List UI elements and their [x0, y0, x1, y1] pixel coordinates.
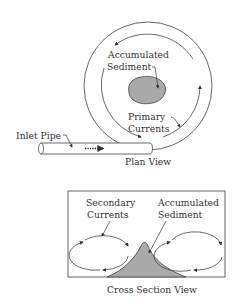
primary-currents-leader — [171, 117, 180, 127]
primary-currents-label-1: Primary — [128, 111, 166, 122]
cross-sediment-label-2: Sediment — [158, 209, 203, 220]
inlet-pipe — [39, 143, 153, 154]
cross-section-caption: Cross Section View — [107, 284, 197, 295]
primary-currents-label-2: Currents — [128, 123, 170, 134]
sediment-flow-diagram: Accumulated Sediment Primary Currents In… — [0, 0, 236, 304]
cross-sediment-label-1: Accumulated — [157, 197, 219, 208]
plan-sediment-label-2: Sediment — [107, 61, 152, 72]
sediment-blob-plan — [129, 76, 166, 103]
plan-sediment-label-1: Accumulated — [107, 49, 169, 60]
secondary-currents-label-2: Currents — [87, 209, 129, 220]
plan-view: Accumulated Sediment Primary Currents In… — [16, 22, 212, 167]
cross-section-view: Secondary Currents Accumulated Sediment … — [68, 191, 225, 295]
plan-view-caption: Plan View — [125, 156, 171, 167]
inlet-pipe-label: Inlet Pipe — [16, 130, 61, 141]
secondary-currents-label-1: Secondary — [86, 197, 136, 208]
